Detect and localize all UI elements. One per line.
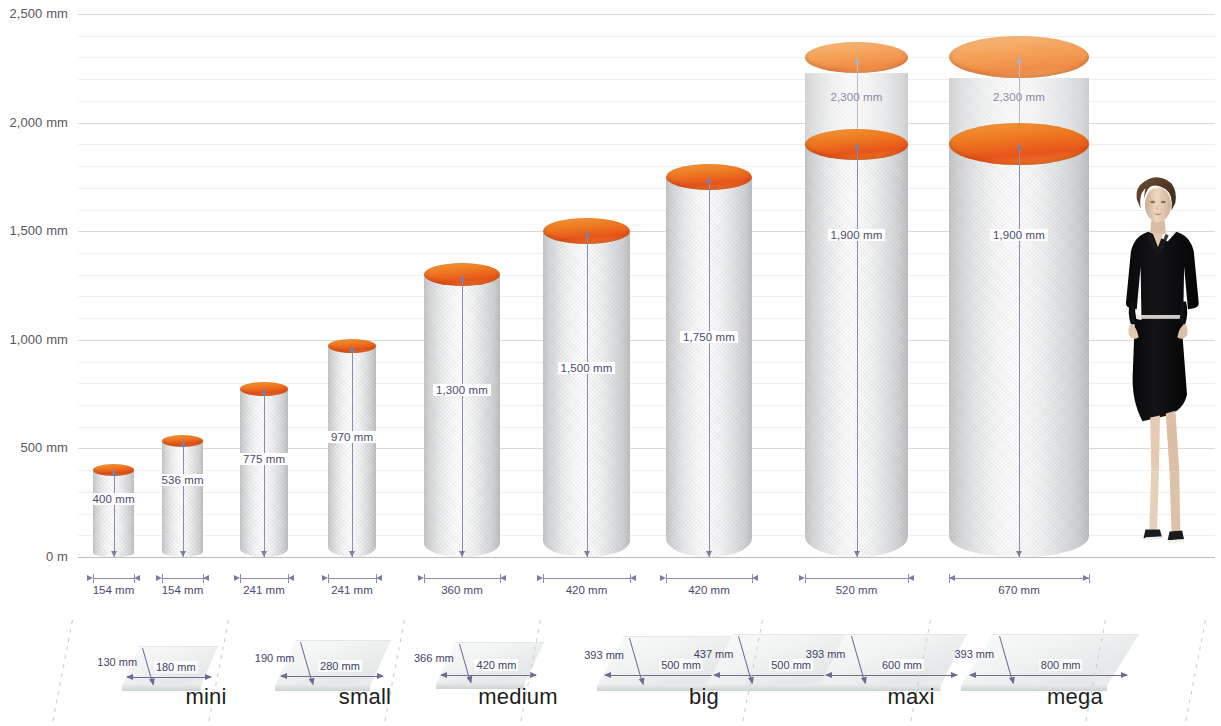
plate-width-label-7: 800 mm [1039, 659, 1083, 671]
width-tick-6-1 [630, 574, 631, 583]
width-tick-4-0 [328, 574, 329, 583]
plate-width-label-1: 180 mm [154, 661, 198, 673]
width-tick-4-1 [376, 574, 377, 583]
width-tick-6-0 [543, 574, 544, 583]
plate-width-label-2: 280 mm [318, 660, 362, 672]
y-axis-tick-0: 0 m [0, 549, 68, 564]
cylinder-height-arrow-1 [114, 470, 115, 557]
width-tick-2-1 [203, 574, 204, 583]
cylinder-width-label-8: 520 mm [833, 584, 881, 596]
width-tick-5-0 [424, 574, 425, 583]
cylinder-height-label-4: 970 mm [328, 431, 376, 443]
category-separator-8 [1185, 620, 1206, 722]
cylinder-width-arrow-1 [93, 578, 134, 579]
category-label-maxi: maxi [887, 684, 934, 710]
y-axis-tick-2500: 2,500 mm [0, 6, 68, 21]
cylinder-height-label-1: 400 mm [89, 493, 137, 505]
cylinder-width-arrow-9 [949, 578, 1089, 579]
plate-width-arrow-1 [127, 677, 211, 678]
plate-depth-label-3: 366 mm [414, 652, 454, 664]
cylinder-width-arrow-2 [162, 578, 203, 579]
cylinder-width-label-6: 420 mm [563, 584, 611, 596]
width-tick-7-1 [752, 574, 753, 583]
cylinder-width-arrow-7 [666, 578, 752, 579]
cylinder-height-label-9: 1,900 mm [990, 229, 1048, 241]
cylinder-width-arrow-6 [543, 578, 630, 579]
plate-depth-label-2: 190 mm [255, 652, 295, 664]
gridline-major [78, 14, 1215, 15]
width-tick-8-0 [805, 574, 806, 583]
width-tick-2-0 [162, 574, 163, 583]
width-tick-3-1 [288, 574, 289, 583]
plate-depth-label-4: 393 mm [584, 649, 624, 661]
category-label-small: small [339, 684, 391, 710]
y-axis-tick-500: 500 mm [0, 440, 68, 455]
baseline [78, 557, 1215, 558]
plate-width-label-5: 500 mm [769, 659, 813, 671]
plate-depth-label-7: 393 mm [954, 648, 994, 660]
plate-width-arrow-6 [826, 675, 956, 676]
width-tick-7-0 [666, 574, 667, 583]
width-tick-8-1 [908, 574, 909, 583]
cylinder-width-label-7: 420 mm [685, 584, 733, 596]
cylinder-width-label-9: 670 mm [995, 584, 1043, 596]
cylinder-height-label-5: 1,300 mm [433, 384, 491, 396]
cylinder-height-arrow-7 [709, 177, 710, 557]
category-separator-1 [52, 620, 73, 722]
cylinder-height-arrow-9 [1019, 144, 1020, 557]
cylinder-height-label-7: 1,750 mm [680, 331, 738, 343]
cylinder-width-arrow-4 [328, 578, 376, 579]
plate-depth-label-1: 130 mm [97, 656, 137, 668]
plate-width-label-4: 500 mm [659, 659, 703, 671]
y-axis-tick-2000: 2,000 mm [0, 115, 68, 130]
cylinder-height-arrow-2 [183, 441, 184, 557]
plate-depth-label-6: 393 mm [806, 648, 846, 660]
cylinder-height-label-2: 536 mm [158, 474, 206, 486]
plate-width-label-3: 420 mm [475, 659, 519, 671]
cylinder-width-label-1: 154 mm [90, 584, 138, 596]
width-tick-9-0 [949, 574, 950, 583]
category-label-big: big [689, 684, 719, 710]
extension-height-label-9: 2,300 mm [990, 91, 1048, 103]
cylinder-height-arrow-3 [264, 389, 265, 557]
cylinder-height-arrow-8 [857, 144, 858, 557]
cylinder-width-label-5: 360 mm [438, 584, 486, 596]
extension-height-label-8: 2,300 mm [828, 91, 886, 103]
chart-canvas: 2,500 mm2,000 mm1,500 mm1,000 mm500 mm0 … [0, 0, 1221, 726]
plate-width-label-6: 600 mm [880, 659, 924, 671]
plate-width-arrow-7 [970, 675, 1127, 676]
plate-width-arrow-2 [281, 676, 383, 677]
y-axis-tick-1500: 1,500 mm [0, 223, 68, 238]
category-label-mini: mini [185, 684, 226, 710]
cylinder-height-arrow-6 [587, 231, 588, 557]
cylinder-width-arrow-8 [805, 578, 908, 579]
plate-width-arrow-3 [441, 675, 536, 676]
width-tick-1-1 [134, 574, 135, 583]
width-tick-1-0 [93, 574, 94, 583]
cylinder-width-label-4: 241 mm [328, 584, 376, 596]
y-axis-tick-1000: 1,000 mm [0, 332, 68, 347]
category-label-medium: medium [478, 684, 557, 710]
cylinder-height-label-8: 1,900 mm [828, 229, 886, 241]
cylinder-width-label-3: 241 mm [240, 584, 288, 596]
cylinder-height-label-3: 775 mm [240, 453, 288, 465]
cylinder-width-arrow-3 [240, 578, 288, 579]
cylinder-height-label-6: 1,500 mm [558, 362, 616, 374]
plate-depth-label-5: 437 mm [694, 648, 734, 660]
cylinder-width-label-2: 154 mm [159, 584, 207, 596]
width-tick-9-1 [1089, 574, 1090, 583]
width-tick-3-0 [240, 574, 241, 583]
person-scale-figure [1104, 170, 1212, 557]
category-label-mega: mega [1047, 684, 1103, 710]
cylinder-height-arrow-5 [462, 275, 463, 557]
cylinder-width-arrow-5 [424, 578, 500, 579]
width-tick-5-1 [500, 574, 501, 583]
cylinder-height-arrow-4 [352, 346, 353, 557]
